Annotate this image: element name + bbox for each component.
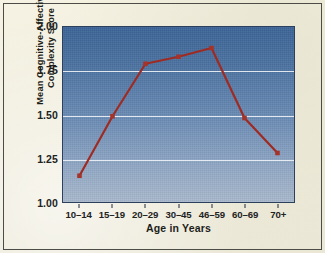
x-tick-mark xyxy=(145,204,146,208)
data-point-marker: 70+: 1.28 xyxy=(275,151,280,156)
x-tick-label: 46–59 xyxy=(199,209,225,220)
x-tick-label: 60–69 xyxy=(232,209,258,220)
y-tick-label: 2.00 xyxy=(18,20,58,32)
x-axis-tick-labels: 10–1415–1920–2930–4546–5960–6970+ xyxy=(62,204,295,220)
x-tick-label: 30–45 xyxy=(165,209,191,220)
data-point-marker: 20–29: 1.79 xyxy=(143,61,148,66)
y-tick-label: 1.25 xyxy=(18,153,58,165)
data-point-marker: 46–59: 1.88 xyxy=(209,46,214,51)
data-point-marker: 60–69: 1.48 xyxy=(242,116,247,121)
x-tick-mark xyxy=(78,204,79,208)
data-point-marker: 10–14: 1.15 xyxy=(77,173,82,178)
series-polyline xyxy=(79,48,277,176)
x-axis-title: Age in Years xyxy=(62,222,295,234)
y-tick-label: 1.50 xyxy=(18,109,58,121)
x-tick-mark xyxy=(245,204,246,208)
x-tick-mark xyxy=(278,204,279,208)
y-tick-label: 1.75 xyxy=(18,64,58,76)
x-tick-mark xyxy=(211,204,212,208)
data-series-line: 10–14: 1.1515–19: 1.4920–29: 1.7930–45: … xyxy=(63,27,294,202)
figure-container: Mean Cognitive-Affective Complexity Scor… xyxy=(0,0,325,253)
x-tick-label: 20–29 xyxy=(132,209,158,220)
x-tick-mark xyxy=(178,204,179,208)
x-tick-mark xyxy=(111,204,112,208)
x-tick-label: 10–14 xyxy=(66,209,92,220)
x-tick-label: 15–19 xyxy=(99,209,125,220)
data-point-marker: 30–45: 1.83 xyxy=(176,54,181,59)
data-point-marker: 15–19: 1.49 xyxy=(110,114,115,119)
y-axis-tick-labels: 1.001.251.501.752.00 xyxy=(14,26,58,203)
plot-area: 10–14: 1.1515–19: 1.4920–29: 1.7930–45: … xyxy=(62,26,295,203)
y-tick-label: 1.00 xyxy=(18,197,58,209)
x-tick-label: 70+ xyxy=(270,209,286,220)
